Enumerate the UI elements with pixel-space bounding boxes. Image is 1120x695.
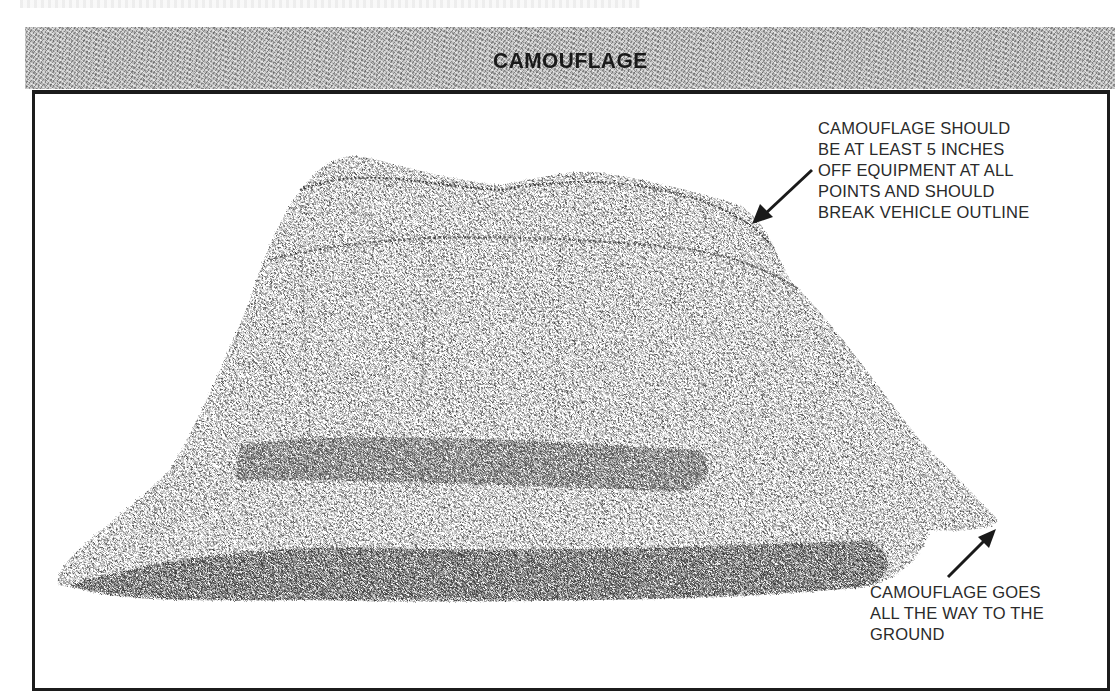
callout-line: GROUND (870, 624, 1100, 645)
callout-line: OFF EQUIPMENT AT ALL (818, 160, 1088, 181)
callout-line: CAMOUFLAGE SHOULD (818, 118, 1088, 139)
callout-line: POINTS AND SHOULD (818, 181, 1088, 202)
section-title: CAMOUFLAGE (493, 42, 648, 74)
section-header-band: CAMOUFLAGE (25, 27, 1115, 89)
callout-to-ground: CAMOUFLAGE GOES ALL THE WAY TO THE GROUN… (870, 582, 1100, 645)
clipped-previous-text (20, 0, 640, 8)
callout-line: BE AT LEAST 5 INCHES (818, 139, 1088, 160)
callout-line: BREAK VEHICLE OUTLINE (818, 202, 1088, 223)
callout-standoff-distance: CAMOUFLAGE SHOULD BE AT LEAST 5 INCHES O… (818, 118, 1088, 223)
callout-line: CAMOUFLAGE GOES (870, 582, 1100, 603)
callout-line: ALL THE WAY TO THE (870, 603, 1100, 624)
